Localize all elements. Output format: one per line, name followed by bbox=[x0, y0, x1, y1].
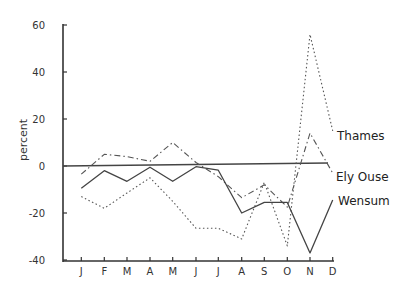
series-ely-ouse bbox=[81, 133, 332, 207]
y-tick-label: 40 bbox=[32, 67, 45, 78]
x-tick-label: M bbox=[123, 266, 132, 277]
x-axis: JFMAMJJASOND bbox=[63, 257, 337, 277]
y-tick-label: 0 bbox=[39, 161, 45, 172]
x-tick-label: F bbox=[101, 266, 107, 277]
series-thames bbox=[81, 34, 332, 246]
x-tick-label: M bbox=[168, 266, 177, 277]
x-tick-label: J bbox=[194, 266, 198, 277]
x-tick-label: N bbox=[306, 266, 313, 277]
y-tick-label: 60 bbox=[32, 20, 45, 31]
series-lines bbox=[81, 34, 332, 253]
x-tick-label: O bbox=[283, 266, 291, 277]
y-tick-label: 20 bbox=[32, 114, 45, 125]
x-tick-label: D bbox=[329, 266, 337, 277]
x-tick-label: J bbox=[216, 266, 220, 277]
y-tick-label: -20 bbox=[29, 208, 45, 219]
series-labels: ThamesEly OuseWensum bbox=[336, 129, 390, 208]
y-axis: 6040200-20-40 bbox=[29, 20, 67, 266]
y-axis-title: percent bbox=[17, 118, 30, 161]
x-tick-label: J bbox=[79, 266, 83, 277]
y-tick-label: -40 bbox=[29, 255, 45, 266]
series-label: Thames bbox=[336, 129, 385, 143]
series-label: Wensum bbox=[338, 194, 390, 208]
x-tick-label: S bbox=[261, 266, 267, 277]
x-tick-label: A bbox=[238, 266, 245, 277]
x-tick-label: A bbox=[147, 266, 154, 277]
zero-reference-line bbox=[63, 163, 328, 166]
series-wensum bbox=[81, 167, 332, 253]
line-chart: 6040200-20-40 JFMAMJJASOND ThamesEly Ous… bbox=[0, 0, 403, 293]
series-label: Ely Ouse bbox=[336, 170, 389, 184]
